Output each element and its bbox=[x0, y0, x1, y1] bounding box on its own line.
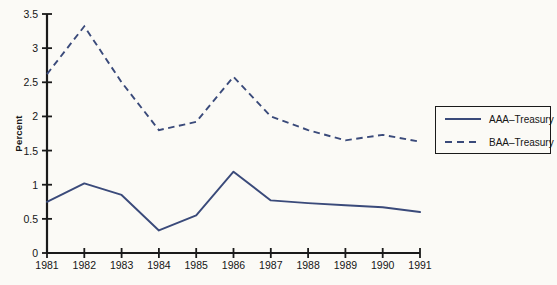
y-tick-label-group: 00.511.522.533.5 bbox=[0, 0, 38, 285]
y-tick-label: 2 bbox=[8, 110, 38, 122]
y-tick-label: 0.5 bbox=[8, 213, 38, 225]
y-tick-label: 3 bbox=[8, 42, 38, 54]
x-tick-label: 1991 bbox=[397, 259, 443, 271]
y-tick-label: 1.5 bbox=[8, 145, 38, 157]
legend-label-baa-treasury: BAA–Treasury bbox=[489, 137, 554, 148]
legend-item-baa-treasury: BAA–Treasury bbox=[436, 130, 550, 154]
chart-legend: AAA–Treasury BAA–Treasury bbox=[435, 106, 551, 154]
legend-item-aaa-treasury: AAA–Treasury bbox=[436, 107, 550, 131]
legend-solid-line-icon bbox=[444, 113, 482, 125]
y-tick-label: 2.5 bbox=[8, 76, 38, 88]
legend-dashed-line-icon bbox=[444, 136, 482, 148]
y-tick-label: 1 bbox=[8, 179, 38, 191]
legend-label-aaa-treasury: AAA–Treasury bbox=[489, 114, 554, 125]
chart-series-layer bbox=[47, 26, 420, 230]
chart-axes bbox=[42, 14, 420, 258]
y-tick-label: 0 bbox=[8, 247, 38, 259]
y-tick-label: 3.5 bbox=[8, 8, 38, 20]
chart-figure: Percent 00.511.522.533.5 198119821983198… bbox=[0, 0, 557, 285]
series-line-baa-treasury bbox=[47, 26, 420, 141]
series-line-aaa-treasury bbox=[47, 172, 420, 231]
